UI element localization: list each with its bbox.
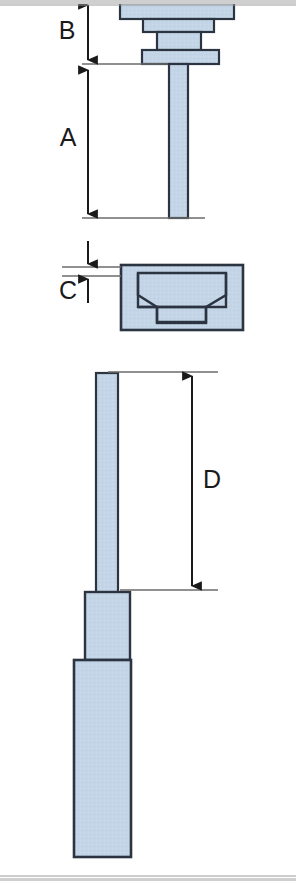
probe-body	[74, 660, 131, 857]
technical-drawing-page: B A C	[0, 0, 296, 889]
seal-body-block	[121, 265, 243, 330]
dimension-label-c: C	[59, 276, 77, 304]
stem-shaft	[169, 64, 188, 218]
dimension-drawing-canvas: B A C	[0, 0, 296, 889]
lower-mounting-flange	[142, 50, 219, 64]
neck-section	[157, 32, 201, 50]
dimension-label-b: B	[59, 16, 76, 44]
upper-shoulder-block	[143, 19, 214, 32]
dimension-label-a: A	[60, 123, 77, 151]
page-background	[0, 0, 296, 889]
page-edge-band-bottom	[0, 878, 296, 881]
dimension-label-d: D	[203, 465, 221, 493]
probe-collar	[85, 592, 130, 660]
probe-rod	[96, 373, 118, 593]
page-edge-band-top	[0, 0, 296, 4]
